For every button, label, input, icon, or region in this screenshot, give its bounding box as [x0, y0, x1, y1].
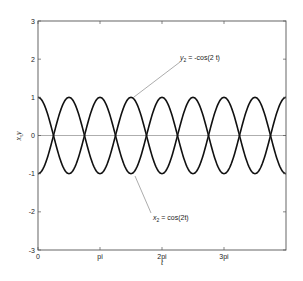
- annotation-label-2: x2 = cos(2t): [152, 214, 189, 223]
- x-tick-label: 0: [36, 253, 40, 260]
- x-tick-label: pi: [97, 253, 103, 261]
- annotation-leader-line: [135, 176, 151, 213]
- line-chart: 0pi2pi3pi3210-1-2-3 y2 = -cos(2 t)x2 = c…: [0, 0, 303, 281]
- x-tick-label: 3pi: [219, 253, 229, 261]
- y-tick-label: -2: [29, 208, 35, 215]
- axis-ticks: 0pi2pi3pi3210-1-2-3: [29, 18, 286, 262]
- y-axis-label: x,y: [14, 131, 23, 142]
- annotation-label-1: y2 = -cos(2 t): [179, 54, 220, 63]
- annotation-leader-line: [134, 62, 180, 97]
- y-tick-label: 3: [31, 18, 35, 25]
- y-tick-label: 2: [31, 56, 35, 63]
- y-tick-label: 1: [31, 94, 35, 101]
- chart-container: 0pi2pi3pi3210-1-2-3 y2 = -cos(2 t)x2 = c…: [0, 0, 303, 281]
- y-tick-label: -1: [29, 170, 35, 177]
- y-tick-label: -3: [29, 247, 35, 254]
- y-tick-label: 0: [31, 132, 35, 139]
